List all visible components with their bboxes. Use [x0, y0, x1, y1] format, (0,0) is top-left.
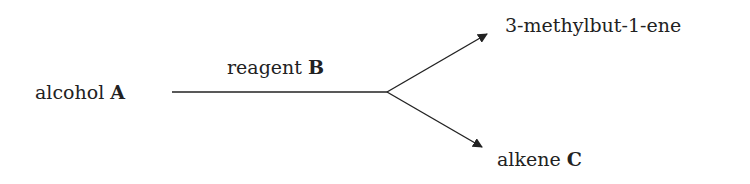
reactant-text: alcohol — [35, 81, 104, 103]
product-1-text: 3-methylbut-1-ene — [505, 14, 681, 36]
reagent-text: reagent — [227, 56, 302, 78]
reactant-label: alcohol A — [35, 83, 125, 102]
reagent-label: reagent B — [227, 58, 324, 77]
product-2-id: C — [567, 148, 582, 170]
upper-branch-arrow — [387, 34, 487, 92]
product-2-text: alkene — [497, 148, 561, 170]
reagent-id: B — [308, 56, 324, 78]
lower-branch-arrow — [387, 92, 482, 147]
product-2-label: alkene C — [497, 150, 582, 169]
reactant-id: A — [110, 81, 125, 103]
product-1-label: 3-methylbut-1-ene — [505, 16, 681, 35]
